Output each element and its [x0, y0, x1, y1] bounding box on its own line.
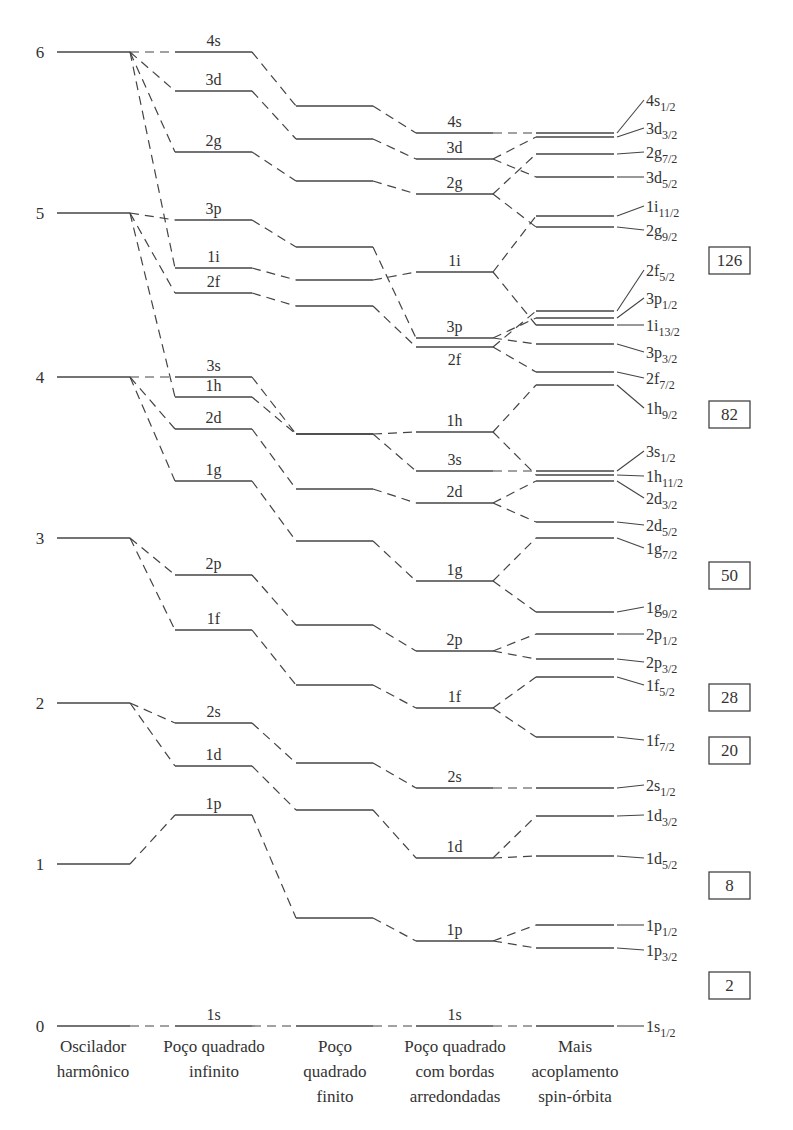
magic-number: 28	[721, 688, 738, 707]
label-2f-infinite: 2f	[207, 273, 221, 290]
label-1s-rounded: 1s	[447, 1006, 461, 1023]
label-spin-orbit: 2p1/2	[646, 626, 677, 648]
label-spin-orbit: 3s1/2	[646, 443, 676, 465]
label-2g-infinite: 2g	[206, 132, 222, 150]
label-1f-infinite: 1f	[207, 610, 221, 627]
label-3p-infinite: 3p	[206, 200, 222, 218]
label-1p-rounded: 1p	[447, 921, 463, 939]
label-2f-rounded: 2f	[448, 351, 462, 368]
label-1s-infinite: 1s	[206, 1006, 220, 1023]
column-label-so: Mais	[558, 1037, 592, 1056]
y-axis-ticks: 6543210	[36, 43, 45, 1036]
column-label-inf: infinito	[189, 1062, 239, 1081]
label-4s-rounded: 4s	[447, 113, 461, 130]
label-1i-infinite: 1i	[207, 248, 220, 265]
magic-numbers: 1268250282082	[709, 247, 750, 999]
column-label-rnd: arredondadas	[410, 1087, 501, 1106]
magic-number: 50	[721, 566, 738, 585]
label-spin-orbit: 2g7/2	[646, 144, 677, 166]
label-spin-orbit: 1g9/2	[646, 599, 677, 621]
magic-number: 20	[721, 741, 738, 760]
label-spin-orbit: 1p1/2	[646, 917, 677, 939]
label-spin-orbit: 1d3/2	[646, 807, 677, 829]
label-2p-rounded: 2p	[447, 631, 463, 649]
label-2d-rounded: 2d	[447, 483, 463, 500]
label-spin-orbit: 1g7/2	[646, 540, 677, 562]
label-1h-infinite: 1h	[206, 377, 222, 394]
label-3s-infinite: 3s	[206, 357, 220, 374]
y-tick-label: 1	[36, 855, 45, 874]
label-spin-orbit: 2p3/2	[646, 654, 677, 676]
column-label-fin: Poço	[318, 1037, 352, 1056]
label-2d-infinite: 2d	[206, 409, 222, 426]
y-tick-label: 0	[36, 1017, 45, 1036]
label-spin-orbit: 1p3/2	[646, 942, 677, 964]
label-2p-infinite: 2p	[206, 555, 222, 573]
shell-model-diagram: 4s4s4s1/23d3d3d3/23d5/22g2g2g7/22g9/23p3…	[0, 0, 793, 1130]
label-1h-rounded: 1h	[447, 412, 463, 429]
label-spin-orbit: 3p3/2	[646, 344, 677, 366]
label-spin-orbit: 3d5/2	[646, 169, 677, 191]
column-label-fin: finito	[317, 1087, 354, 1106]
label-2s-infinite: 2s	[206, 703, 220, 720]
label-1d-rounded: 1d	[447, 838, 463, 855]
label-spin-orbit: 2f5/2	[646, 262, 675, 284]
y-tick-label: 3	[36, 529, 45, 548]
label-3p-rounded: 3p	[447, 318, 463, 336]
column-label-rnd: Poço quadrado	[404, 1037, 506, 1056]
column-label-rnd: com bordas	[416, 1062, 495, 1081]
label-1g-infinite: 1g	[206, 461, 222, 479]
label-spin-orbit: 2g9/2	[646, 222, 677, 244]
column-label-osc: harmônico	[57, 1062, 130, 1081]
level-labels: 4s4s4s1/23d3d3d3/23d5/22g2g2g7/22g9/23p3…	[206, 32, 683, 1040]
label-1i-rounded: 1i	[448, 252, 461, 269]
label-spin-orbit: 4s1/2	[646, 92, 676, 114]
label-spin-orbit: 3d3/2	[646, 120, 677, 142]
label-1p-infinite: 1p	[206, 795, 222, 813]
label-spin-orbit: 1h9/2	[646, 400, 677, 422]
y-tick-label: 4	[36, 368, 45, 387]
magic-number: 2	[725, 976, 734, 995]
label-spin-orbit: 1f5/2	[646, 677, 675, 699]
label-1g-rounded: 1g	[447, 561, 463, 579]
label-spin-orbit: 3p1/2	[646, 290, 677, 312]
column-label-fin: quadrado	[303, 1062, 366, 1081]
y-tick-label: 2	[36, 694, 45, 713]
label-3d-rounded: 3d	[447, 139, 463, 156]
column-label-so: spin-órbita	[538, 1087, 612, 1106]
column-label-inf: Poço quadrado	[163, 1037, 265, 1056]
label-spin-orbit: 1h11/2	[646, 468, 683, 490]
label-1f-rounded: 1f	[448, 688, 462, 705]
label-spin-orbit: 1i13/2	[646, 317, 680, 339]
magic-number: 8	[725, 876, 734, 895]
magic-number: 82	[721, 405, 738, 424]
label-2g-rounded: 2g	[447, 174, 463, 192]
label-4s-infinite: 4s	[206, 32, 220, 49]
label-spin-orbit: 1s1/2	[646, 1018, 676, 1040]
label-3d-infinite: 3d	[206, 71, 222, 88]
label-spin-orbit: 1d5/2	[646, 850, 677, 872]
column-label-so: acoplamento	[532, 1062, 619, 1081]
label-spin-orbit: 2d5/2	[646, 517, 677, 539]
level-lines	[57, 52, 644, 1026]
label-1d-infinite: 1d	[206, 746, 222, 763]
label-spin-orbit: 2s1/2	[646, 777, 676, 799]
column-label-osc: Oscilador	[60, 1037, 126, 1056]
label-spin-orbit: 2d3/2	[646, 490, 677, 512]
label-2s-rounded: 2s	[447, 768, 461, 785]
y-tick-label: 5	[36, 204, 45, 223]
label-spin-orbit: 1i11/2	[646, 198, 679, 220]
y-tick-label: 6	[36, 43, 45, 62]
label-spin-orbit: 2f7/2	[646, 370, 675, 392]
column-labels: OsciladorharmônicoPoço quadradoinfinitoP…	[57, 1037, 619, 1106]
label-3s-rounded: 3s	[447, 451, 461, 468]
label-spin-orbit: 1f7/2	[646, 732, 675, 754]
magic-number: 126	[717, 251, 743, 270]
